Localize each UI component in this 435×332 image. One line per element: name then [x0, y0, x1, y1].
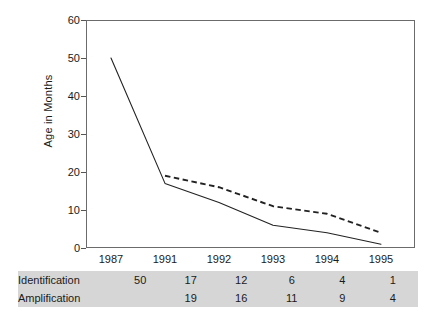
table-cell-identification-1994: 4 — [317, 271, 368, 289]
y-axis-title: Age in Months — [42, 51, 54, 171]
chart-figure: Age in Months 60 50 40 30 20 10 0 1987 1… — [0, 0, 435, 332]
table-cell-amplification-1991: 19 — [165, 289, 216, 307]
y-tick-label-30: 30 — [58, 129, 80, 140]
x-tick-label-1992: 1992 — [193, 253, 245, 265]
table-cell-amplification-1995: 4 — [367, 289, 418, 307]
x-tick-label-1991: 1991 — [139, 253, 191, 265]
table-row-label-amplification: Amplification — [18, 289, 115, 307]
series-line-amplification — [165, 176, 381, 233]
y-tick-label-0: 0 — [58, 243, 80, 254]
table-cell-amplification-1987 — [115, 289, 166, 307]
x-tick-label-1994: 1994 — [301, 253, 353, 265]
table-row: Amplification 19 16 11 9 4 — [18, 289, 418, 307]
table-cell-identification-1987: 50 — [115, 271, 166, 289]
table-cell-identification-1995: 1 — [367, 271, 418, 289]
table-cell-amplification-1993: 11 — [266, 289, 317, 307]
series-line-identification — [111, 58, 381, 244]
y-tick-label-20: 20 — [58, 167, 80, 178]
y-tick-label-10: 10 — [58, 205, 80, 216]
x-tick-label-1987: 1987 — [85, 253, 137, 265]
table-cell-identification-1992: 12 — [216, 271, 267, 289]
table-cell-amplification-1994: 9 — [317, 289, 368, 307]
plot-lines — [86, 20, 415, 248]
table-cell-identification-1993: 6 — [266, 271, 317, 289]
x-tick-label-1993: 1993 — [247, 253, 299, 265]
y-tick-label-50: 50 — [58, 53, 80, 64]
y-tick-label-60: 60 — [58, 15, 80, 26]
data-table: Identification 50 17 12 6 4 1 Amplificat… — [18, 271, 418, 307]
table-row-label-identification: Identification — [18, 271, 115, 289]
y-tick-mark-0 — [81, 248, 86, 249]
y-tick-label-40: 40 — [58, 91, 80, 102]
table-cell-amplification-1992: 16 — [216, 289, 267, 307]
table-cell-identification-1991: 17 — [165, 271, 216, 289]
table-row: Identification 50 17 12 6 4 1 — [18, 271, 418, 289]
x-tick-label-1995: 1995 — [355, 253, 407, 265]
